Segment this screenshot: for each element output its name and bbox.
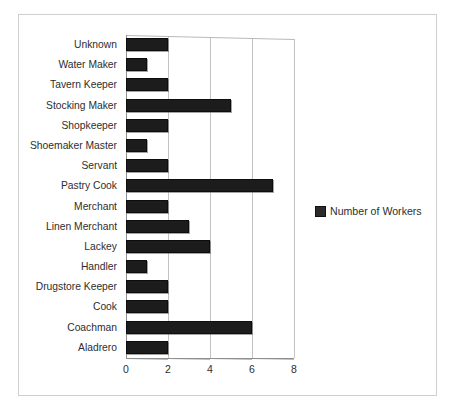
bar[interactable] (126, 139, 147, 152)
legend-label: Number of Workers (330, 205, 422, 217)
plot-wrap: UnknownWater MakerTavern KeeperStocking … (19, 15, 438, 397)
bar-row (126, 55, 294, 75)
bar[interactable] (126, 260, 147, 273)
bar-row (126, 297, 294, 317)
category-label: Shoemaker Master (19, 136, 122, 156)
bar[interactable] (126, 179, 273, 192)
category-label: Servant (19, 156, 122, 176)
gridline (294, 39, 295, 358)
bar-row (126, 75, 294, 95)
bar-row (126, 116, 294, 136)
bar[interactable] (126, 321, 252, 334)
bar-row (126, 35, 294, 55)
category-axis-line (126, 358, 294, 359)
bar-row (126, 96, 294, 116)
legend-swatch-icon (315, 206, 326, 217)
bar[interactable] (126, 300, 168, 313)
bar-row (126, 176, 294, 196)
category-label: Water Maker (19, 55, 122, 75)
bars-container (126, 35, 294, 358)
category-axis-labels: UnknownWater MakerTavern KeeperStocking … (19, 35, 122, 358)
bar[interactable] (126, 200, 168, 213)
category-label: Aladrero (19, 338, 122, 358)
x-tick-label: 6 (249, 363, 255, 375)
category-label: Linen Merchant (19, 217, 122, 237)
category-label: Pastry Cook (19, 176, 122, 196)
bar[interactable] (126, 38, 168, 51)
category-label: Shopkeeper (19, 116, 122, 136)
value-axis-labels: 02468 (126, 363, 326, 381)
category-label: Merchant (19, 197, 122, 217)
category-label: Stocking Maker (19, 96, 122, 116)
bar[interactable] (126, 240, 210, 253)
legend[interactable]: Number of Workers (315, 205, 422, 217)
bar-row (126, 136, 294, 156)
chart-frame: UnknownWater MakerTavern KeeperStocking … (18, 14, 437, 396)
bar[interactable] (126, 280, 168, 293)
bar-row (126, 257, 294, 277)
bar[interactable] (126, 159, 168, 172)
category-label: Unknown (19, 35, 122, 55)
x-tick-label: 4 (207, 363, 213, 375)
category-label: Coachman (19, 318, 122, 338)
bar-row (126, 217, 294, 237)
bar-row (126, 237, 294, 257)
category-label: Lackey (19, 237, 122, 257)
category-label: Tavern Keeper (19, 75, 122, 95)
bar[interactable] (126, 119, 168, 132)
bar[interactable] (126, 58, 147, 71)
bar-row (126, 318, 294, 338)
bar-row (126, 277, 294, 297)
bar[interactable] (126, 78, 168, 91)
x-tick-label: 0 (123, 363, 129, 375)
category-label: Drugstore Keeper (19, 277, 122, 297)
bar-row (126, 197, 294, 217)
x-tick-label: 8 (291, 363, 297, 375)
bar[interactable] (126, 220, 189, 233)
bar-row (126, 338, 294, 358)
category-label: Cook (19, 297, 122, 317)
x-tick-label: 2 (165, 363, 171, 375)
bar[interactable] (126, 99, 231, 112)
bar-row (126, 156, 294, 176)
bar[interactable] (126, 341, 168, 354)
category-label: Handler (19, 257, 122, 277)
